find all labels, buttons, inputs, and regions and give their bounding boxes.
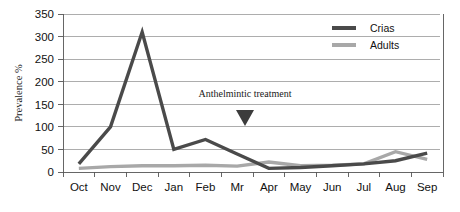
y-tick-marks [58, 14, 63, 172]
x-tick-label: Aug [385, 181, 405, 193]
x-tick-label: Sep [417, 181, 437, 193]
chart-figure: 350 300 250 200 150 100 50 0 Prevalence … [0, 0, 460, 212]
y-tick-label: 300 [35, 31, 54, 43]
legend-label-adults: Adults [370, 39, 399, 51]
y-tick-label: 100 [35, 121, 54, 133]
data-series-group [79, 32, 427, 168]
x-tick-label: Oct [70, 181, 89, 193]
annotation-label: Anthelmintic treatment [198, 88, 291, 99]
x-tick-label: Feb [196, 181, 216, 193]
x-tick-label: Nov [100, 181, 121, 193]
down-triangle-icon [236, 110, 254, 126]
y-tick-labels: 350 300 250 200 150 100 50 0 [35, 8, 54, 178]
y-axis-title: Prevalence % [13, 64, 24, 122]
x-tick-label: Mr [230, 181, 244, 193]
legend-label-crias: Crias [370, 22, 395, 34]
y-tick-label: 200 [35, 76, 54, 88]
x-tick-marks [63, 172, 443, 177]
x-tick-label: Jan [165, 181, 184, 193]
y-tick-label: 150 [35, 99, 54, 111]
y-tick-label: 0 [48, 166, 54, 178]
x-tick-label: Jun [323, 181, 342, 193]
y-tick-label: 250 [35, 53, 54, 65]
line-chart-canvas: 350 300 250 200 150 100 50 0 Prevalence … [0, 0, 460, 212]
x-tick-labels: OctNovDecJanFebMrAprMayJunJulAugSep [70, 181, 438, 193]
gridlines [63, 14, 440, 149]
y-tick-label: 50 [41, 144, 54, 156]
x-tick-label: Dec [132, 181, 153, 193]
annotation-anthelmintic-treatment: Anthelmintic treatment [198, 88, 291, 126]
x-tick-label: Apr [260, 181, 278, 193]
x-tick-label: May [290, 181, 312, 193]
series-line-crias [79, 32, 427, 168]
y-tick-label: 350 [35, 8, 54, 20]
x-tick-label: Jul [356, 181, 371, 193]
